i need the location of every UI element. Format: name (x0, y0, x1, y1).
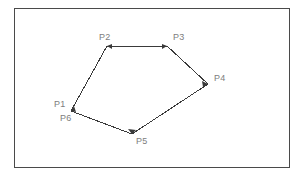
vertex-label-p1: P1 (54, 99, 65, 109)
polygon-outline (71, 46, 208, 134)
vertex-label-p4: P4 (214, 73, 225, 83)
vertex-label-p2: P2 (99, 32, 110, 42)
vertex-label-p6: P6 (60, 113, 71, 123)
diagram-canvas: P1 P2 P3 P4 P5 P6 (0, 0, 305, 176)
vertex-label-p3: P3 (173, 32, 184, 42)
vertex-label-p5: P5 (136, 136, 147, 146)
vertex-arrowheads (71, 44, 208, 134)
polygon-graphic (0, 0, 305, 176)
